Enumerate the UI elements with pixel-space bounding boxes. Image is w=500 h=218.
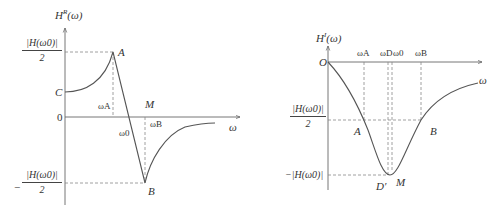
right-omega-D-label: ωD: [380, 49, 392, 58]
left-omega-0-label: ω0: [119, 129, 129, 138]
left-point-A: A: [118, 47, 125, 58]
right-point-A: A: [354, 126, 361, 137]
right-point-B: B: [430, 126, 437, 137]
left-top-fraction: |H(ω0)| 2: [22, 38, 62, 63]
right-mid-fraction: |H(ω0)| 2: [290, 104, 326, 129]
diagram-canvas: [0, 0, 500, 218]
left-point-M: M: [145, 99, 154, 110]
right-point-D-prime: D′: [376, 181, 386, 192]
left-curve: [65, 52, 215, 183]
right-min-label: −|H(ω0)|: [285, 170, 323, 180]
left-plot: [65, 28, 240, 205]
left-point-B: B: [148, 186, 155, 197]
left-y-axis-label: HR(ω): [55, 9, 82, 21]
left-omega-B-label: ωB: [150, 120, 162, 129]
right-x-axis-label: ω: [479, 75, 487, 86]
right-omega-0-label: ω0: [393, 49, 403, 58]
right-plot: [328, 46, 482, 190]
left-x-axis-label: ω: [229, 122, 237, 133]
right-curve: [328, 62, 478, 175]
left-point-C: C: [55, 87, 62, 98]
right-point-M: M: [396, 177, 405, 188]
right-omega-B-label: ωB: [415, 49, 427, 58]
left-bottom-fraction-sign: −: [14, 182, 20, 193]
right-origin-label: O: [319, 57, 327, 68]
left-omega-A-label: ωA: [98, 102, 110, 111]
right-y-axis-label: HI(ω): [316, 32, 341, 44]
left-bottom-fraction: |H(ω0)| 2: [22, 170, 62, 195]
right-omega-A-label: ωA: [357, 49, 369, 58]
left-origin-label: 0: [57, 112, 63, 123]
